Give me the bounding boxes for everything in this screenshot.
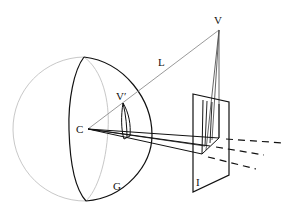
label-V: V bbox=[214, 14, 222, 26]
projected-arc-2 bbox=[123, 103, 127, 138]
label-G: G bbox=[113, 180, 121, 192]
label-C: C bbox=[76, 123, 83, 135]
label-V-prime: V′ bbox=[116, 90, 126, 102]
dashed-ray-2 bbox=[216, 147, 264, 155]
sphere-gray-meridian bbox=[84, 57, 108, 201]
dashed-ray-1 bbox=[226, 139, 284, 143]
projection-diagram: V L V′ C G I bbox=[0, 0, 294, 212]
label-I: I bbox=[196, 176, 200, 188]
line-of-sight-L bbox=[88, 30, 219, 129]
ray-c-4 bbox=[88, 129, 205, 146]
label-L: L bbox=[158, 56, 165, 68]
dashed-ray-3 bbox=[208, 157, 256, 169]
